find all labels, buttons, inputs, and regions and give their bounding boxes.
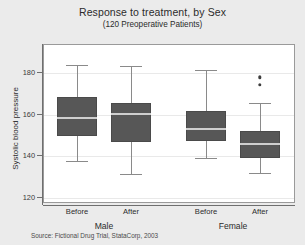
outlier-point [258, 83, 261, 86]
boxplot-female-after [0, 0, 305, 245]
whisker-cap-lower [249, 173, 271, 174]
outlier-point [258, 76, 261, 79]
whisker-cap-upper [249, 103, 271, 104]
whisker-lower [260, 158, 261, 173]
box-iqr [240, 131, 280, 158]
median-line [240, 143, 280, 145]
boxplot-chart: Response to treatment, by Sex (120 Preop… [0, 0, 305, 245]
whisker-upper [260, 103, 261, 131]
